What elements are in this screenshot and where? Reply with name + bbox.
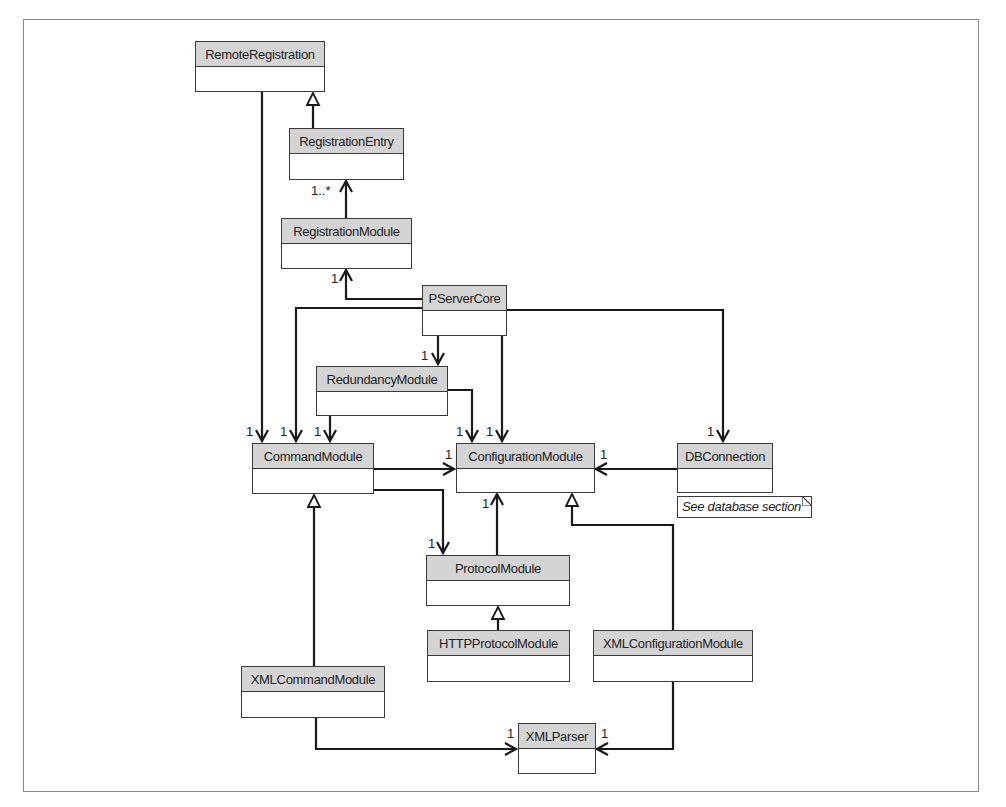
edge-xmlconfigurationmodule-configurationmodule bbox=[572, 494, 673, 630]
multiplicity-label: 1 bbox=[445, 448, 452, 461]
class-name: ProtocolModule bbox=[427, 556, 569, 581]
class-name: HTTPProtocolModule bbox=[428, 631, 569, 656]
class-name: RedundancyModule bbox=[317, 367, 447, 392]
multiplicity-label: 1 bbox=[600, 448, 607, 461]
class-redundancy-module[interactable]: RedundancyModule bbox=[316, 366, 448, 416]
edge-pservercore-dbconnection bbox=[506, 310, 723, 441]
class-name: XMLConfigurationModule bbox=[594, 631, 752, 656]
relationship-edges bbox=[0, 0, 1006, 807]
class-name: DBConnection bbox=[678, 444, 772, 469]
multiplicity-label: 1 bbox=[507, 727, 514, 740]
note-fold-icon bbox=[802, 496, 812, 506]
class-remote-registration[interactable]: RemoteRegistration bbox=[195, 41, 325, 92]
edge-xmlcommandmodule-xmlparser bbox=[316, 717, 516, 749]
edge-pservercore-registrationmodule bbox=[346, 270, 422, 299]
multiplicity-label: 1 bbox=[428, 537, 435, 550]
multiplicity-label: 1 bbox=[486, 425, 493, 438]
multiplicity-label: 1 bbox=[314, 425, 321, 438]
note-database-section: See database section bbox=[677, 496, 812, 518]
class-name: PServerCore bbox=[423, 286, 506, 311]
class-xml-command-module[interactable]: XMLCommandModule bbox=[241, 666, 385, 718]
class-name: RegistrationModule bbox=[282, 219, 411, 244]
class-xml-parser[interactable]: XMLParser bbox=[518, 723, 596, 774]
multiplicity-label: 1 bbox=[456, 425, 463, 438]
class-registration-entry[interactable]: RegistrationEntry bbox=[289, 128, 404, 180]
class-name: RegistrationEntry bbox=[290, 129, 403, 154]
class-name: RemoteRegistration bbox=[196, 42, 324, 67]
class-name: XMLCommandModule bbox=[242, 667, 384, 692]
multiplicity-label: 1 bbox=[601, 727, 608, 740]
multiplicity-label: 1..* bbox=[311, 184, 331, 197]
class-db-connection[interactable]: DBConnection bbox=[677, 443, 773, 493]
class-command-module[interactable]: CommandModule bbox=[252, 443, 374, 494]
edge-xmlconfigurationmodule-xmlparser bbox=[597, 681, 673, 749]
multiplicity-label: 1 bbox=[707, 425, 714, 438]
class-protocol-module[interactable]: ProtocolModule bbox=[426, 555, 570, 606]
note-text: See database section bbox=[682, 499, 801, 514]
multiplicity-label: 1 bbox=[331, 272, 338, 285]
class-name: ConfigurationModule bbox=[457, 444, 594, 469]
class-configuration-module[interactable]: ConfigurationModule bbox=[456, 443, 595, 493]
class-name: CommandModule bbox=[253, 444, 373, 469]
multiplicity-label: 1 bbox=[421, 349, 428, 362]
class-http-protocol-module[interactable]: HTTPProtocolModule bbox=[427, 630, 570, 682]
multiplicity-label: 1 bbox=[482, 497, 489, 510]
class-name: XMLParser bbox=[519, 724, 595, 749]
multiplicity-label: 1 bbox=[280, 425, 287, 438]
class-pserver-core[interactable]: PServerCore bbox=[422, 285, 507, 336]
class-registration-module[interactable]: RegistrationModule bbox=[281, 218, 412, 269]
multiplicity-label: 1 bbox=[246, 425, 253, 438]
class-xml-configuration-module[interactable]: XMLConfigurationModule bbox=[593, 630, 753, 682]
